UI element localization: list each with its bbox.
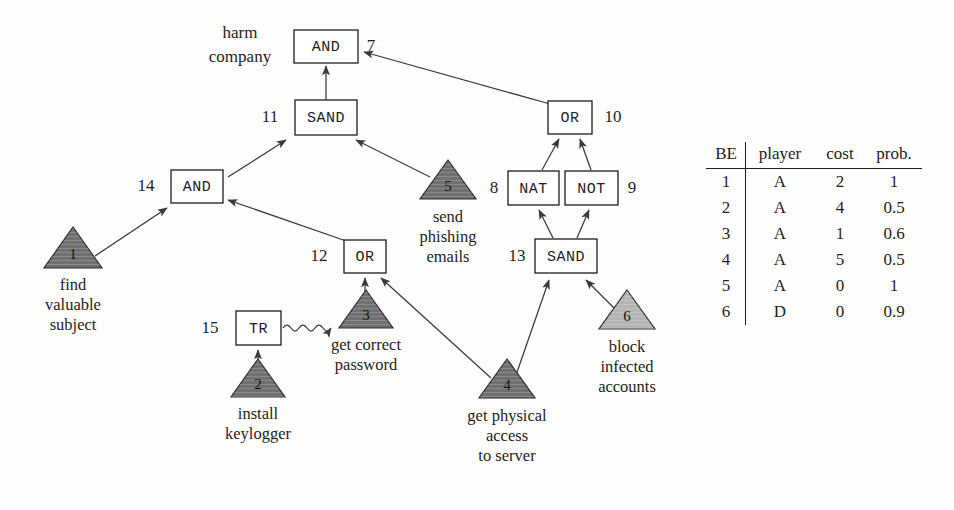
table-header-row: BE player cost prob. [706,142,922,169]
column-header-player: player [746,142,815,169]
edge-12-to-14 [228,200,352,243]
table-row: 6 D 0 0.9 [706,299,922,325]
gate-type-14: AND [183,179,212,196]
cell-cost: 5 [814,247,866,273]
gate-node-9[interactable]: NOT 9 [565,171,636,205]
root-label-line1: harm [223,23,258,42]
gate-node-11[interactable]: SAND 11 [262,100,357,135]
gate-id-15: 15 [202,318,219,337]
gate-id-14: 14 [138,176,156,195]
be-label-1-line2: valuable [45,295,101,314]
gate-id-10: 10 [605,107,622,126]
edge-15-to-3-squiggly [283,325,331,331]
be-label-4-line2: access [486,426,528,445]
cell-prob: 1 [866,273,922,299]
be-label-5-line2: phishing [420,227,477,246]
cell-player: A [746,221,815,247]
gate-type-8: NAT [519,181,548,198]
be-parameter-table: BE player cost prob. 1 A 2 1 2 A 4 0.5 [706,142,940,325]
figure-canvas: harm company AND 7 SAND 11 AND 14 OR 12 [0,0,954,510]
gate-type-13: SAND [547,249,585,266]
gate-id-8: 8 [490,178,499,197]
gate-id-11: 11 [262,107,278,126]
edge-14-to-11 [228,140,286,177]
be-label-6-line1: block [609,337,646,356]
basic-event-4[interactable]: 4 get physical access to server [467,359,547,465]
cell-prob: 1 [866,169,922,196]
column-header-cost: cost [814,142,866,169]
be-label-2-line1: install [238,404,279,423]
edge-13-to-8 [539,210,553,238]
cell-be: 4 [706,247,746,273]
gate-id-9: 9 [628,178,637,197]
gate-type-9: NOT [577,181,606,198]
cell-player: A [746,169,815,196]
table-row: 1 A 2 1 [706,169,922,196]
edge-4-to-12 [381,278,491,378]
basic-event-1[interactable]: 1 find valuable subject [44,227,102,334]
be-label-4-line1: get physical [467,406,547,425]
gate-id-12: 12 [311,246,328,265]
triangle-id-5: 5 [444,178,452,194]
cell-be: 5 [706,273,746,299]
be-label-2-line2: keylogger [225,424,291,443]
cell-be: 1 [706,169,746,196]
edge-6-to-13 [586,280,616,310]
be-label-6-line2: infected [600,357,654,376]
gate-type-7: AND [312,39,341,56]
gate-node-15[interactable]: TR 15 [202,311,282,345]
cell-be: 2 [706,195,746,221]
cell-prob: 0.9 [866,299,922,325]
cell-be: 3 [706,221,746,247]
root-label-line2: company [209,47,272,66]
gate-id-7: 7 [367,36,376,55]
cell-prob: 0.5 [866,195,922,221]
gate-node-14[interactable]: AND 14 [138,170,224,203]
triangle-id-6: 6 [623,308,631,324]
triangle-id-4: 4 [503,377,511,393]
column-header-be: BE [706,142,746,169]
cell-player: A [746,195,815,221]
be-label-4-line3: to server [478,446,536,465]
be-label-1-line1: find [60,275,87,294]
edge-8-to-10 [542,139,559,170]
be-label-1-line3: subject [50,315,97,334]
table-row: 5 A 0 1 [706,273,922,299]
edge-5-to-11 [356,140,430,177]
be-label-3-line2: password [335,355,398,374]
edge-13-to-9 [577,210,589,238]
edge-10-to-7 [364,52,550,104]
cell-cost: 1 [814,221,866,247]
triangle-id-1: 1 [69,246,77,262]
cell-player: D [746,299,815,325]
cell-cost: 2 [814,169,866,196]
gate-node-13[interactable]: SAND 13 [509,239,598,273]
gate-type-12: OR [355,249,374,266]
column-header-prob: prob. [866,142,922,169]
edge-1-to-14 [95,208,167,256]
edge-4-to-13 [515,280,549,378]
be-label-3-line1: get correct [331,335,401,354]
be-label-6-line3: accounts [598,377,656,396]
table-row: 2 A 4 0.5 [706,195,922,221]
gate-id-13: 13 [509,246,526,265]
gate-node-7[interactable]: AND 7 [294,30,376,63]
table-row: 3 A 1 0.6 [706,221,922,247]
be-label-5-line1: send [433,207,464,226]
gate-node-10[interactable]: OR 10 [548,101,622,134]
gate-node-12[interactable]: OR 12 [311,240,387,273]
gate-node-8[interactable]: NAT 8 [490,171,559,205]
root-label: harm company [209,23,272,66]
triangle-id-2: 2 [254,376,262,392]
cell-cost: 4 [814,195,866,221]
table-row: 4 A 5 0.5 [706,247,922,273]
basic-event-2[interactable]: 2 install keylogger [225,359,291,443]
gate-type-11: SAND [307,110,345,127]
cell-prob: 0.6 [866,221,922,247]
cell-prob: 0.5 [866,247,922,273]
basic-event-6[interactable]: 6 block infected accounts [598,290,656,396]
basic-event-3[interactable]: 3 get correct password [331,290,401,374]
cell-player: A [746,273,815,299]
be-label-5-line3: emails [426,247,469,266]
cell-cost: 0 [814,299,866,325]
